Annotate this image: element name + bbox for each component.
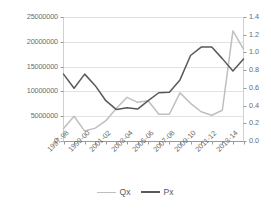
legend-label: Qx xyxy=(119,188,130,197)
chart-container: 0500000010000000150000002000000025000000… xyxy=(0,0,271,214)
right-axis-tick-label: 1.4 xyxy=(249,13,259,20)
right-axis-tick-label: 0.4 xyxy=(249,102,259,109)
left-axis-tick-label: 5000000 xyxy=(0,112,58,119)
legend-label: Px xyxy=(163,188,173,197)
right-axis-tick-label: 1.0 xyxy=(249,48,259,55)
series-line-px xyxy=(64,47,244,109)
legend-swatch-qx xyxy=(97,192,116,193)
legend-entry-px[interactable]: Px xyxy=(141,188,173,197)
left-axis-tick-label: 25000000 xyxy=(0,13,58,20)
legend-entry-qx[interactable]: Qx xyxy=(97,188,130,197)
right-axis-tick-label: 1.2 xyxy=(249,31,259,38)
left-axis-tick-label: 15000000 xyxy=(0,63,58,70)
legend-swatch-px xyxy=(141,191,160,193)
right-axis-tick-label: 0.6 xyxy=(249,84,259,91)
left-axis-tick-label: 20000000 xyxy=(0,38,58,45)
right-axis-tick-label: 0.8 xyxy=(249,66,259,73)
right-axis-tick-label: 0.0 xyxy=(249,137,259,144)
right-axis-tick-label: 0.2 xyxy=(249,119,259,126)
chart-plot-area xyxy=(0,0,271,214)
axis-lines xyxy=(64,17,244,142)
left-axis-tick-label: 10000000 xyxy=(0,87,58,94)
chart-legend: QxPx xyxy=(0,188,271,197)
